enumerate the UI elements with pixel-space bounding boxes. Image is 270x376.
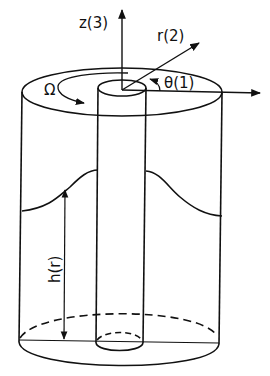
rotating-cylinder-diagram: z(3) r(2) θ(1) Ω h(r) [0,0,270,376]
inner-cylinder-bottom-front [96,343,143,351]
z-axis-label: z(3) [79,14,108,32]
theta-arc [150,79,160,91]
inner-cylinder-bottom-back [97,333,142,341]
bottom-diameter-line [19,340,219,343]
inner-cylinder-left-wall [96,88,98,343]
free-surface-right [146,171,222,216]
outer-cylinder-bottom-back [20,314,217,338]
outer-cylinder-left-wall [19,92,22,342]
height-arrow [64,190,65,339]
inner-cylinder-right-wall [143,88,146,343]
theta-axis-label: θ(1) [164,74,194,92]
r-axis-label: r(2) [157,27,184,45]
outer-cylinder-right-wall [219,93,222,344]
height-label: h(r) [46,256,64,283]
free-surface-left [22,170,98,211]
rotation-label: Ω [44,81,55,99]
